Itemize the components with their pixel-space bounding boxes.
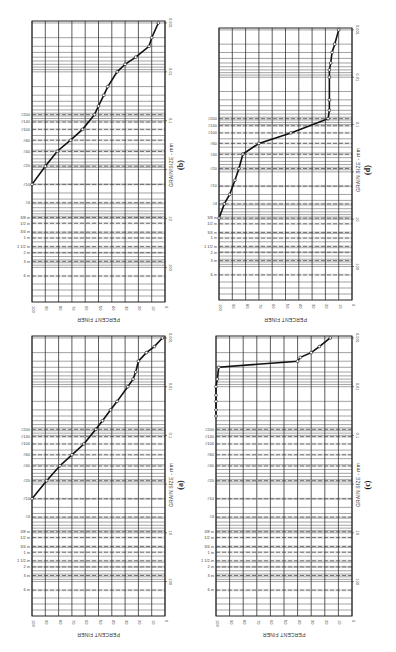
panel-label: (d) xyxy=(363,165,372,175)
size-tick-label: 100 xyxy=(355,263,360,270)
percent-tick-label: 30 xyxy=(310,620,315,625)
percent-tick-label: 100 xyxy=(215,620,220,627)
data-point xyxy=(228,193,231,196)
sieve-label: #20 xyxy=(210,166,217,171)
percent-tick-label: 70 xyxy=(256,620,261,625)
data-point xyxy=(217,366,220,369)
size-tick-label: 10 xyxy=(355,531,360,536)
data-point xyxy=(116,70,119,73)
data-point xyxy=(134,371,137,374)
sieve-label: #4 xyxy=(26,200,31,205)
size-tick-label: 0.001 xyxy=(168,18,173,29)
grain-size-axis-label: GRAIN SIZE - mm xyxy=(355,463,361,507)
percent-tick-label: 20 xyxy=(324,304,329,309)
data-point xyxy=(132,378,135,381)
chart-panel-a: 6 in3 in2 in1 1/2 in1 in3/4 in1/2 in3/8 … xyxy=(17,333,185,638)
data-point xyxy=(93,113,96,116)
sieve-label: #140 xyxy=(21,119,31,124)
sieve-label: 3 in xyxy=(211,258,217,263)
data-point xyxy=(157,22,160,25)
sieve-label: 3/8 in xyxy=(20,215,30,220)
percent-tick-label: 70 xyxy=(71,620,76,625)
sieve-label: #100 xyxy=(208,130,218,135)
sieve-label: #40 xyxy=(23,149,30,154)
size-tick-label: 0.01 xyxy=(168,68,173,77)
sieve-label: #140 xyxy=(205,434,215,439)
data-point xyxy=(327,117,330,120)
percent-tick-label: 20 xyxy=(324,620,329,625)
percent-tick-label: 30 xyxy=(311,304,316,309)
sieve-label: 2 in xyxy=(24,564,30,569)
percent-tick-label: 50 xyxy=(98,306,103,311)
sieve-label: 3/8 in xyxy=(20,529,30,534)
percent-tick-label: 50 xyxy=(98,620,103,625)
percent-tick-label: 40 xyxy=(111,620,116,625)
sieve-label: #140 xyxy=(21,434,31,439)
sieve-label: 1 1/2 in xyxy=(17,558,30,563)
gradation-curve xyxy=(32,23,158,184)
size-tick-label: 100 xyxy=(355,578,360,585)
percent-tick-label: 70 xyxy=(258,304,263,309)
sieve-label: 6 in xyxy=(208,587,214,592)
sieve-label: 6 in xyxy=(24,273,30,278)
sieve-label: #60 xyxy=(23,452,30,457)
sieve-label: 1/2 in xyxy=(20,535,30,540)
percent-tick-label: 20 xyxy=(137,306,142,311)
data-point xyxy=(137,360,140,363)
sieve-label: #10 xyxy=(210,183,217,188)
data-point xyxy=(329,62,332,65)
sieve-label: #100 xyxy=(205,441,215,446)
size-tick-label: 10 xyxy=(168,531,173,536)
data-point xyxy=(329,337,332,340)
data-point xyxy=(215,394,218,397)
percent-tick-label: 80 xyxy=(58,620,63,625)
sieve-label: 1/2 in xyxy=(20,221,30,226)
data-point xyxy=(328,109,331,112)
data-point xyxy=(126,385,129,388)
percent-finer-axis-label: PERCENT FINER xyxy=(262,632,305,638)
size-tick-label: 0.1 xyxy=(168,433,173,439)
data-point xyxy=(328,98,331,101)
sieve-label: #20 xyxy=(23,478,30,483)
percent-tick-label: 10 xyxy=(151,620,156,625)
sieve-label: #20 xyxy=(207,478,214,483)
sieve-label: 1 in xyxy=(24,550,30,555)
percent-tick-label: 100 xyxy=(31,306,36,313)
grain-size-axis-label: GRAIN SIZE - mm xyxy=(168,143,174,187)
size-tick-label: 0.01 xyxy=(168,383,173,392)
sieve-label: #20 xyxy=(23,163,30,168)
data-point xyxy=(148,45,151,48)
grain-size-axis-label: GRAIN SIZE - mm xyxy=(168,463,174,507)
sieve-label: 1 in xyxy=(211,235,217,240)
gradation-curve xyxy=(216,338,330,416)
percent-tick-label: 50 xyxy=(283,620,288,625)
percent-tick-label: 90 xyxy=(231,304,236,309)
percent-finer-axis-label: PERCENT FINER xyxy=(264,317,307,323)
data-point xyxy=(215,409,218,412)
sieve-label: #10 xyxy=(23,496,30,501)
percent-tick-label: 70 xyxy=(71,306,76,311)
sieve-label: #40 xyxy=(23,463,30,468)
data-point xyxy=(69,139,72,142)
sieve-label: 3 in xyxy=(24,259,30,264)
percent-finer-axis-label: PERCENT FINER xyxy=(77,317,120,323)
data-point xyxy=(328,69,331,72)
data-point xyxy=(333,43,336,46)
data-point xyxy=(218,217,221,220)
percent-tick-label: 100 xyxy=(31,620,36,627)
data-point xyxy=(328,76,331,79)
size-tick-label: 0.1 xyxy=(355,122,360,128)
sieve-label: 3/4 in xyxy=(204,544,214,549)
data-point xyxy=(289,131,292,134)
percent-tick-label: 0 xyxy=(164,620,169,623)
sieve-label: #100 xyxy=(21,441,31,446)
percent-tick-label: 60 xyxy=(269,620,274,625)
sieve-label: #4 xyxy=(26,514,31,519)
percent-tick-label: 60 xyxy=(84,620,89,625)
data-point xyxy=(81,128,84,131)
sieve-label: 2 in xyxy=(211,250,217,255)
percent-tick-label: 60 xyxy=(84,306,89,311)
percent-tick-label: 80 xyxy=(242,620,247,625)
data-point xyxy=(97,105,100,108)
percent-tick-label: 0 xyxy=(351,620,356,623)
